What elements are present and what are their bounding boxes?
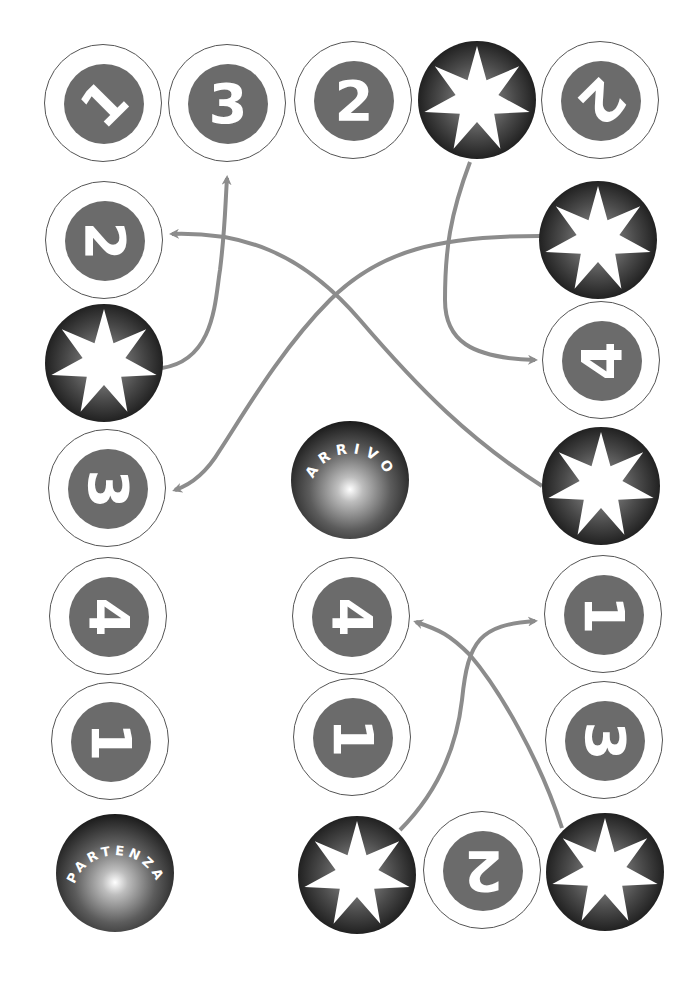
- number-spot[interactable]: 3: [48, 429, 166, 547]
- number-spot[interactable]: 2: [294, 41, 412, 159]
- number-spot[interactable]: 4: [49, 557, 167, 675]
- number-disc: 4: [312, 577, 392, 657]
- star-spot[interactable]: [546, 813, 664, 931]
- spot-number: 2: [567, 67, 634, 134]
- number-spot[interactable]: 1: [293, 678, 411, 796]
- spot-number: 2: [335, 73, 374, 129]
- star-icon: [546, 813, 664, 931]
- star-icon: [542, 427, 660, 545]
- number-spot[interactable]: 4: [542, 301, 660, 419]
- spot-number: 1: [83, 723, 139, 762]
- number-disc: 2: [561, 61, 641, 141]
- spot-number: 4: [324, 598, 380, 637]
- star-spot[interactable]: [539, 181, 657, 299]
- start-label: PARTENZA: [64, 843, 169, 886]
- number-spot[interactable]: 2: [45, 181, 163, 299]
- spot-number: 2: [77, 222, 133, 261]
- star-spot[interactable]: [298, 816, 416, 934]
- star-spot[interactable]: [542, 427, 660, 545]
- number-spot[interactable]: 2: [541, 41, 659, 159]
- spot-number: 3: [80, 470, 136, 509]
- star-spot[interactable]: [45, 304, 163, 422]
- spot-number: 1: [576, 596, 632, 635]
- number-disc: 1: [71, 702, 151, 782]
- spot-number: 3: [577, 722, 633, 761]
- number-spot[interactable]: 1: [44, 44, 162, 162]
- star-icon: [539, 181, 657, 299]
- start-spot[interactable]: PARTENZA: [56, 814, 174, 932]
- start-label-arc: PARTENZA: [56, 814, 174, 932]
- arrow-path: [162, 178, 227, 368]
- game-board: 13224132142341 PARTENZA ARRIVO: [0, 0, 693, 984]
- spot-number: 1: [325, 719, 381, 758]
- number-disc: 4: [562, 321, 642, 401]
- number-disc: 2: [443, 831, 523, 911]
- finish-spot[interactable]: ARRIVO: [291, 421, 409, 539]
- spot-number: 1: [70, 70, 137, 137]
- number-spot[interactable]: 1: [544, 555, 662, 673]
- star-spot[interactable]: [418, 41, 536, 159]
- spot-number: 4: [81, 598, 137, 637]
- number-disc: 3: [565, 701, 645, 781]
- number-spot[interactable]: 3: [168, 44, 286, 162]
- number-spot[interactable]: 4: [292, 557, 410, 675]
- number-disc: 1: [313, 698, 393, 778]
- arrow-path: [416, 622, 562, 828]
- number-disc: 1: [564, 575, 644, 655]
- spot-number: 4: [574, 342, 630, 381]
- finish-label: ARRIVO: [302, 440, 400, 481]
- star-icon: [298, 816, 416, 934]
- star-icon: [45, 304, 163, 422]
- number-disc: 3: [68, 449, 148, 529]
- number-spot[interactable]: 1: [51, 682, 169, 800]
- arrow-path: [445, 162, 535, 360]
- number-disc: 4: [69, 577, 149, 657]
- star-icon: [418, 41, 536, 159]
- svg-text:PARTENZA: PARTENZA: [64, 843, 169, 886]
- finish-label-arc: ARRIVO: [291, 421, 409, 539]
- number-spot[interactable]: 3: [545, 681, 663, 799]
- number-disc: 2: [314, 61, 394, 141]
- spot-number: 2: [464, 843, 503, 899]
- number-disc: 2: [65, 201, 145, 281]
- number-spot[interactable]: 2: [423, 811, 541, 929]
- spot-number: 3: [209, 76, 248, 132]
- number-disc: 3: [188, 64, 268, 144]
- svg-text:ARRIVO: ARRIVO: [302, 440, 400, 481]
- number-disc: 1: [64, 64, 144, 144]
